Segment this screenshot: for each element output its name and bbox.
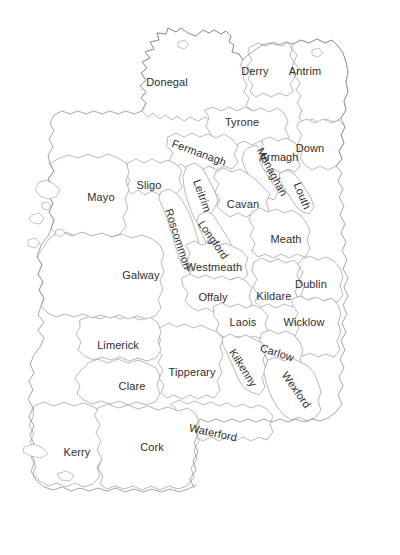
island-small-west-1 [42,202,51,210]
county-label-offaly: Offaly [198,292,227,303]
county-shape-clare [75,359,160,405]
county-label-antrim: Antrim [289,66,321,77]
county-label-donegal: Donegal [146,77,188,88]
county-label-wicklow: Wicklow [283,317,324,328]
county-label-clare: Clare [119,381,146,392]
ireland-outline-map [0,0,400,555]
county-label-cork: Cork [140,442,164,453]
county-label-laois: Laois [230,317,257,328]
county-label-kildare: Kildare [257,291,292,302]
county-label-sligo: Sligo [137,180,162,191]
county-shape-tipperary [156,323,223,399]
island-inishbofin [29,213,44,224]
county-label-galway: Galway [122,270,159,281]
county-label-cavan: Cavan [227,199,259,210]
county-label-derry: Derry [241,66,268,77]
county-label-mayo: Mayo [87,192,114,203]
island-aran [28,238,40,248]
county-label-down: Down [296,143,325,154]
county-label-kerry: Kerry [64,447,91,458]
county-label-meath: Meath [270,234,301,245]
county-label-westmeath: Westmeath [186,262,242,273]
county-label-dublin: Dublin [295,279,327,290]
county-label-tipperary: Tipperary [169,367,216,378]
ireland-map-container: Donegal Derry Antrim Tyrone Down Fermana… [0,0,400,555]
county-label-limerick: Limerick [97,340,139,351]
county-label-tyrone: Tyrone [225,117,259,128]
